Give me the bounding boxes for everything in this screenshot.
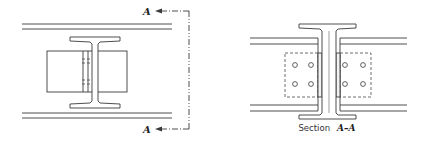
bolt-icon (361, 82, 366, 87)
bolt-icon (361, 63, 366, 68)
section-label-top: A (142, 6, 151, 17)
connection-plate (47, 51, 127, 92)
bolt-icon (293, 63, 298, 68)
section-cut-marker: A A (142, 6, 189, 135)
caption-prefix: Section (298, 123, 330, 133)
angle-right (336, 53, 340, 97)
bolt-icon (343, 63, 348, 68)
section-caption: Section A–A (298, 117, 355, 134)
left-elevation-view: A A (22, 6, 189, 135)
right-section-view: Section A–A (250, 24, 407, 134)
bolt-icon (309, 63, 314, 68)
bolt-icon (343, 82, 348, 87)
arrow-left-icon (155, 9, 162, 14)
caption-section-id: A–A (336, 123, 355, 133)
bolt-icon (293, 82, 298, 87)
structural-connection-drawing: A A (0, 0, 424, 144)
hidden-plate-left (285, 53, 318, 97)
bolt-icon (309, 82, 314, 87)
arrow-left-icon (155, 127, 162, 132)
angle-left (318, 53, 322, 97)
section-label-bottom: A (142, 124, 151, 135)
hidden-plate-right (340, 53, 371, 97)
